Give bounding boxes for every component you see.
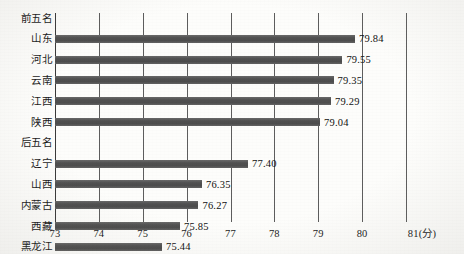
category-row: 山东 <box>0 33 52 44</box>
category-label: 河北 <box>0 54 52 65</box>
group-header-label: 前五名 <box>0 13 52 24</box>
category-row: 河北 <box>0 54 52 65</box>
bar <box>55 201 198 209</box>
group-header-row: 后五名 <box>0 137 52 148</box>
x-tick-label-79: 79 <box>313 228 324 239</box>
category-label: 山东 <box>0 33 52 44</box>
bar-value-label: 79.29 <box>335 96 360 107</box>
category-label: 云南 <box>0 75 52 86</box>
bar-value-label: 79.84 <box>359 33 384 44</box>
bar-value-label: 75.44 <box>166 241 191 252</box>
group-header-row: 前五名 <box>0 13 52 24</box>
category-label: 辽宁 <box>0 158 52 169</box>
bar <box>55 35 355 43</box>
bar-value-label: 79.35 <box>338 75 363 86</box>
plot-area: 737475767778798081(分) 前五名山东79.84河北79.55云… <box>0 0 464 254</box>
bar <box>55 56 342 64</box>
category-label: 黑龙江 <box>0 241 52 252</box>
category-label: 山西 <box>0 179 52 190</box>
bar-value-label: 79.55 <box>346 54 371 65</box>
category-row: 西藏 <box>0 221 52 232</box>
bar-value-label: 77.40 <box>252 158 277 169</box>
category-row: 云南 <box>0 75 52 86</box>
category-row: 黑龙江 <box>0 241 52 252</box>
x-tick-label-77: 77 <box>225 228 236 239</box>
category-row: 内蒙古 <box>0 200 52 211</box>
gridline-81 <box>406 13 407 222</box>
category-row: 山西 <box>0 179 52 190</box>
bar <box>55 118 320 126</box>
x-tick-label-81: 81(分) <box>408 228 437 239</box>
bar-chart: 737475767778798081(分) 前五名山东79.84河北79.55云… <box>0 0 464 254</box>
category-label: 陕西 <box>0 117 52 128</box>
category-row: 陕西 <box>0 117 52 128</box>
category-label: 西藏 <box>0 221 52 232</box>
bar-value-label: 76.27 <box>202 200 227 211</box>
group-header-label: 后五名 <box>0 137 52 148</box>
bar <box>55 76 334 84</box>
gridline-80 <box>362 13 363 222</box>
bar-value-label: 79.04 <box>324 117 349 128</box>
bar <box>55 160 248 168</box>
bar <box>55 222 180 230</box>
category-label: 江西 <box>0 96 52 107</box>
category-row: 辽宁 <box>0 158 52 169</box>
bar <box>55 180 202 188</box>
category-label: 内蒙古 <box>0 200 52 211</box>
x-tick-label-78: 78 <box>269 228 280 239</box>
x-tick-label-80: 80 <box>357 228 368 239</box>
bar <box>55 243 162 251</box>
bar-value-label: 75.85 <box>184 221 209 232</box>
bar <box>55 97 331 105</box>
category-row: 江西 <box>0 96 52 107</box>
bar-value-label: 76.35 <box>206 179 231 190</box>
